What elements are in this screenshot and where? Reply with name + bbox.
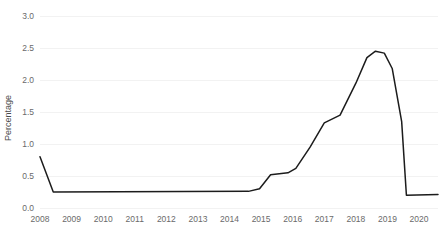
y-tick-label-0.0: 0.0 [22,203,34,213]
x-tick-label-2016: 2016 [283,214,302,224]
y-tick-label-1.5: 1.5 [22,107,34,117]
x-tick-label-2020: 2020 [410,214,429,224]
line-chart: 0.00.51.01.52.02.53.0 200820092010201120… [0,0,444,238]
x-tick-label-2014: 2014 [220,214,239,224]
y-axis-title: Percentage [3,95,13,141]
x-tick-label-2019: 2019 [378,214,397,224]
x-tick-label-2013: 2013 [188,214,207,224]
x-tick-label-2017: 2017 [315,214,334,224]
y-tick-label-0.5: 0.5 [22,171,34,181]
x-tick-label-2015: 2015 [252,214,271,224]
y-tick-label-3.0: 3.0 [22,11,34,21]
y-tick-label-2.5: 2.5 [22,43,34,53]
x-tick-label-2018: 2018 [346,214,365,224]
chart-container: 0.00.51.01.52.02.53.0 200820092010201120… [0,0,444,238]
chart-background [0,0,444,238]
x-tick-label-2008: 2008 [31,214,50,224]
y-tick-label-2.0: 2.0 [22,75,34,85]
x-tick-label-2009: 2009 [62,214,81,224]
y-tick-label-1.0: 1.0 [22,139,34,149]
x-tick-label-2011: 2011 [126,214,145,224]
x-tick-label-2012: 2012 [157,214,176,224]
x-tick-label-2010: 2010 [94,214,113,224]
